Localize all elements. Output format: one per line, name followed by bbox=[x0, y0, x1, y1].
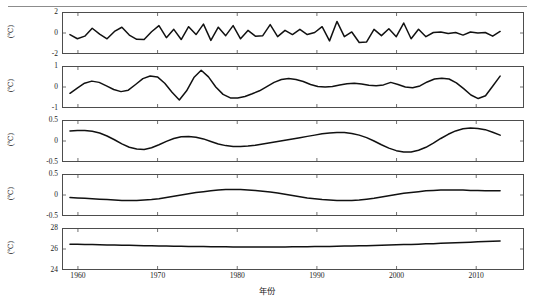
y-axis-unit-imf1: (℃) bbox=[8, 20, 15, 44]
x-tick-label: 1980 bbox=[217, 272, 257, 280]
panel-res bbox=[62, 228, 524, 270]
y-axis-unit-imf3: (℃) bbox=[8, 128, 15, 152]
y-tick-label: 2 bbox=[28, 8, 58, 15]
y-tick-label: 26 bbox=[28, 245, 58, 252]
panel-plot-res bbox=[62, 228, 524, 270]
y-tick-label: 0 bbox=[28, 29, 58, 36]
series-line-res bbox=[70, 241, 500, 247]
panel-imf1 bbox=[62, 12, 524, 54]
panel-imf4 bbox=[62, 174, 524, 216]
panel-plot-imf3 bbox=[62, 120, 524, 162]
y-tick-label: -1 bbox=[28, 104, 58, 111]
emd-decomposition-figure: 196019701980199020002010 年份 -202(℃)IMF1-… bbox=[0, 0, 533, 306]
panel-imf3 bbox=[62, 120, 524, 162]
y-tick-label: 0 bbox=[28, 83, 58, 90]
series-line-imf3 bbox=[70, 128, 500, 152]
y-axis-unit-imf4: (℃) bbox=[8, 182, 15, 206]
panel-plot-imf4 bbox=[62, 174, 524, 216]
series-line-imf2 bbox=[70, 70, 500, 100]
panel-imf2 bbox=[62, 66, 524, 108]
y-tick-label: 24 bbox=[28, 266, 58, 273]
top-rule-divider bbox=[8, 6, 527, 7]
x-tick-label: 2010 bbox=[456, 272, 496, 280]
y-axis-unit-res: (℃) bbox=[8, 236, 15, 260]
y-tick-label: 0.5 bbox=[28, 170, 58, 177]
x-tick-label: 1960 bbox=[58, 272, 98, 280]
y-axis-unit-imf2: (℃) bbox=[8, 74, 15, 98]
y-tick-label: -2 bbox=[28, 50, 58, 57]
panel-plot-imf2 bbox=[62, 66, 524, 108]
x-tick-label: 2000 bbox=[377, 272, 417, 280]
y-tick-label: 1 bbox=[28, 62, 58, 69]
y-tick-label: 0 bbox=[28, 137, 58, 144]
panel-plot-imf1 bbox=[62, 12, 524, 54]
y-tick-label: -0.5 bbox=[28, 158, 58, 165]
x-axis-title: 年份 bbox=[0, 287, 533, 295]
series-line-imf1 bbox=[70, 21, 500, 42]
y-tick-label: 0 bbox=[28, 191, 58, 198]
y-tick-label: 0.5 bbox=[28, 116, 58, 123]
y-tick-label: -0.5 bbox=[28, 212, 58, 219]
x-tick-label: 1970 bbox=[138, 272, 178, 280]
y-tick-label: 28 bbox=[28, 224, 58, 231]
x-tick-label: 1990 bbox=[297, 272, 337, 280]
series-line-imf4 bbox=[70, 190, 500, 201]
